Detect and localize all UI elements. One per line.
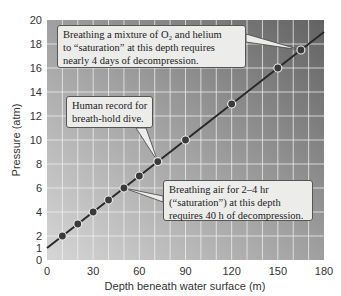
data-point <box>182 136 190 144</box>
y-tick-label: 1 <box>36 242 42 254</box>
y-tick-label: 10 <box>30 134 42 146</box>
y-tick-label: 6 <box>36 182 42 194</box>
data-point <box>297 46 305 54</box>
callout-air: Breathing air for 2–4 hr (“saturation”) … <box>163 180 313 221</box>
y-tick-label: 12 <box>30 110 42 122</box>
x-tick-label: 90 <box>179 265 191 277</box>
data-point <box>228 100 236 108</box>
data-point <box>89 208 97 216</box>
x-tick-label: 30 <box>87 265 99 277</box>
x-tick-label: 150 <box>269 265 287 277</box>
x-tick-label: 60 <box>133 265 145 277</box>
callout-line: nearly 4 days of decompression. <box>63 54 240 67</box>
callout-line: to “saturation” at this depth requires <box>63 41 240 54</box>
callout-line: Breathing air for 2–4 hr <box>169 183 307 196</box>
y-axis-label: Pressure (atm) <box>10 104 22 177</box>
y-tick-label: 20 <box>30 14 42 26</box>
y-tick-label: 14 <box>30 86 42 98</box>
x-tick-label: 180 <box>315 265 333 277</box>
y-tick-label: 0 <box>36 254 42 266</box>
x-axis-label: Depth beneath water surface (m) <box>105 280 266 292</box>
y-tick-label: 2 <box>36 230 42 242</box>
callout-line: breath-hold dive. <box>72 112 147 125</box>
y-tick-label: 4 <box>36 206 42 218</box>
callout-breath-hold: Human record for breath-hold dive. <box>66 96 153 128</box>
data-point <box>274 64 282 72</box>
data-point <box>105 196 113 204</box>
data-point <box>154 158 162 166</box>
data-point <box>58 232 66 240</box>
y-tick-label: 18 <box>30 38 42 50</box>
callout-helium: Breathing a mixture of O₂ and helium to … <box>57 25 246 68</box>
callout-line: (“saturation”) at this depth <box>169 196 307 209</box>
x-tick-label: 120 <box>222 265 240 277</box>
callout-line: Human record for <box>72 99 147 112</box>
data-point <box>120 184 128 192</box>
y-tick-label: 8 <box>36 158 42 170</box>
y-tick-label: 16 <box>30 62 42 74</box>
data-point <box>135 172 143 180</box>
x-tick-label: 0 <box>44 265 50 277</box>
callout-line: Breathing a mixture of O₂ and helium <box>63 28 240 41</box>
callout-line: requires 40 h of decompression. <box>169 209 307 222</box>
data-point <box>74 220 82 228</box>
